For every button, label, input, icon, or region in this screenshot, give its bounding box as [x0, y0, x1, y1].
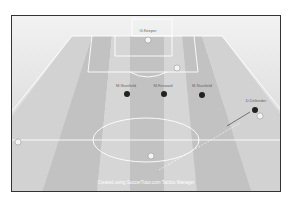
- pitch: [12, 16, 281, 192]
- label-mid-left: M.Stanfield: [116, 83, 136, 88]
- caption: Created using SoccerTutor.com Tactics Ma…: [97, 180, 194, 185]
- tactics-board: G.Keeper M.Stanfield M.Forward M.Stanfie…: [11, 15, 281, 192]
- label-mid-center: M.Forward: [153, 83, 172, 88]
- label-goalkeeper: G.Keeper: [139, 28, 156, 33]
- label-mid-right: M.Stanfield: [192, 83, 212, 88]
- label-right-player: D.Defender: [246, 98, 266, 103]
